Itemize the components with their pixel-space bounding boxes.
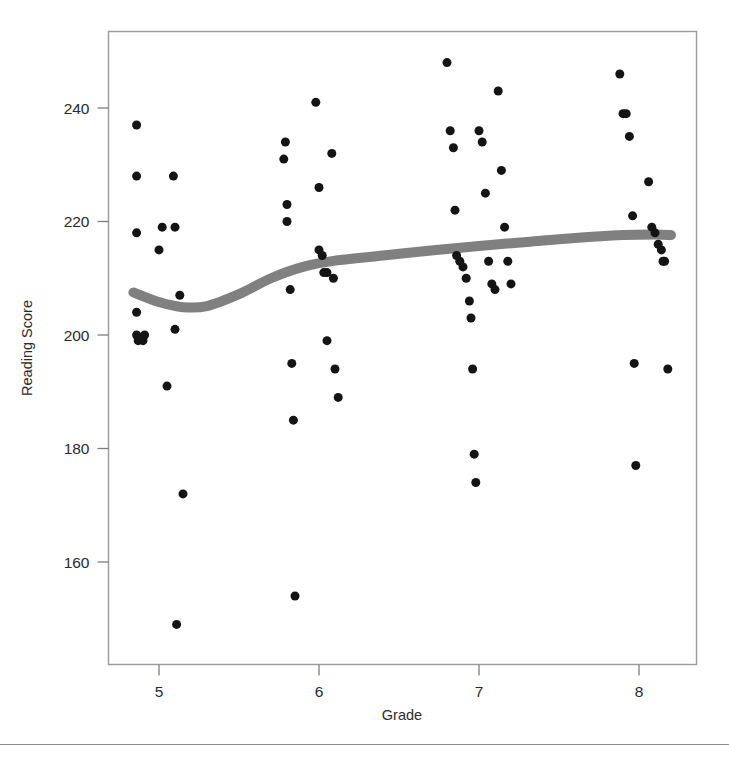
- scatter-point: [175, 291, 184, 300]
- scatter-point: [279, 155, 288, 164]
- scatter-point: [291, 592, 300, 601]
- scatter-point: [631, 461, 640, 470]
- plot-canvas: 5678 160180200220240 Grade Reading Score: [0, 0, 729, 736]
- scatter-point: [443, 58, 452, 67]
- scatter-point: [625, 132, 634, 141]
- scatter-point: [171, 325, 180, 334]
- scatter-point: [459, 262, 468, 271]
- scatter-point: [507, 279, 516, 288]
- y-tick-label: 240: [64, 100, 90, 117]
- scatter-point: [470, 450, 479, 459]
- scatter-point: [318, 251, 327, 260]
- scatter-point: [286, 285, 295, 294]
- x-axis-title: Grade: [382, 707, 422, 723]
- scatter-point: [468, 365, 477, 374]
- figure-page: 5678 160180200220240 Grade Reading Score: [0, 0, 729, 763]
- plot-background: [0, 0, 729, 736]
- scatter-point: [644, 177, 653, 186]
- y-tick-label: 220: [64, 213, 90, 230]
- scatter-point: [657, 245, 666, 254]
- scatter-point: [169, 172, 178, 181]
- x-tick-label: 8: [635, 683, 644, 700]
- scatter-point: [132, 308, 141, 317]
- scatter-point: [481, 189, 490, 198]
- scatter-point: [132, 121, 141, 130]
- scatter-point: [158, 223, 167, 232]
- scatter-point: [630, 359, 639, 368]
- scatter-point: [329, 274, 338, 283]
- scatter-point: [465, 296, 474, 305]
- scatter-point: [467, 313, 476, 322]
- scatter-point: [484, 257, 493, 266]
- scatter-point: [503, 257, 512, 266]
- scatter-point: [155, 245, 164, 254]
- scatter-point: [283, 200, 292, 209]
- scatter-point: [283, 217, 292, 226]
- scatter-point: [327, 149, 336, 158]
- scatter-point: [172, 620, 181, 629]
- scatter-point: [663, 365, 672, 374]
- scatter-point: [451, 206, 460, 215]
- scatter-point: [500, 223, 509, 232]
- y-tick-label: 160: [64, 554, 90, 571]
- scatter-point: [622, 109, 631, 118]
- scatter-point: [628, 211, 637, 220]
- scatter-point: [491, 285, 500, 294]
- scatter-point: [462, 274, 471, 283]
- y-tick-label: 200: [64, 327, 90, 344]
- scatter-point: [494, 86, 503, 95]
- x-tick-label: 6: [315, 683, 324, 700]
- scatter-point: [660, 257, 669, 266]
- scatter-point: [497, 166, 506, 175]
- y-tick-label: 180: [64, 440, 90, 457]
- scatter-point: [179, 489, 188, 498]
- y-axis-title: Reading Score: [19, 300, 35, 396]
- scatter-point: [323, 336, 332, 345]
- scatter-point: [478, 138, 487, 147]
- scatter-point: [132, 172, 141, 181]
- scatter-point: [449, 143, 458, 152]
- scatter-point: [132, 228, 141, 237]
- scatter-point: [615, 69, 624, 78]
- scatter-point: [163, 382, 172, 391]
- scatter-point: [334, 393, 343, 402]
- scatter-point: [651, 228, 660, 237]
- scatter-plot-figure: 5678 160180200220240 Grade Reading Score: [0, 0, 729, 736]
- scatter-point: [315, 183, 324, 192]
- scatter-point: [281, 138, 290, 147]
- scatter-point: [140, 331, 149, 340]
- page-divider-rule: [0, 744, 729, 745]
- scatter-point: [331, 365, 340, 374]
- x-tick-label: 7: [475, 683, 484, 700]
- scatter-point: [311, 98, 320, 107]
- scatter-point: [475, 126, 484, 135]
- scatter-point: [446, 126, 455, 135]
- x-tick-label: 5: [155, 683, 164, 700]
- scatter-point: [471, 478, 480, 487]
- scatter-point: [171, 223, 180, 232]
- scatter-point: [287, 359, 296, 368]
- scatter-point: [289, 416, 298, 425]
